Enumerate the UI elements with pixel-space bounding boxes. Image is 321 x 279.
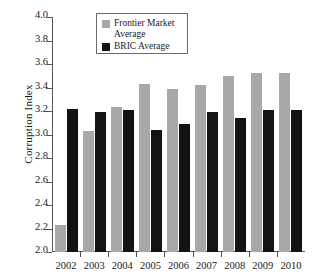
- x-tick-mark: [136, 252, 137, 257]
- x-tick-label: 2008: [221, 260, 249, 271]
- bar-chart-figure: Corruption Index 2.02.22.42.62.83.03.23.…: [0, 0, 321, 279]
- bar-bric-average-2010: [291, 110, 302, 252]
- bar-bric-average-2002: [67, 109, 78, 252]
- bar-frontier-market-average-2008: [223, 76, 234, 252]
- x-tick-label: 2003: [80, 260, 108, 271]
- y-tick-label: 4.0: [35, 9, 48, 20]
- x-tick-label: 2005: [136, 260, 164, 271]
- x-tick-mark: [193, 252, 194, 257]
- x-tick-mark: [164, 252, 165, 257]
- legend-label-bric: BRIC Average: [114, 41, 170, 52]
- legend-item-bric: BRIC Average: [102, 41, 183, 52]
- bar-frontier-market-average-2010: [279, 73, 290, 252]
- bar-frontier-market-average-2004: [111, 107, 122, 252]
- y-tick-label: 3.0: [35, 127, 48, 138]
- bar-bric-average-2008: [235, 118, 246, 252]
- bar-bric-average-2006: [179, 124, 190, 252]
- bar-frontier-market-average-2003: [83, 131, 94, 252]
- y-tick-label: 3.6: [35, 56, 48, 67]
- y-tick-label: 3.2: [35, 103, 48, 114]
- x-tick-label: 2010: [277, 260, 305, 271]
- bar-bric-average-2003: [95, 112, 106, 252]
- bar-bric-average-2009: [263, 110, 274, 252]
- bar-bric-average-2005: [151, 130, 162, 252]
- bar-frontier-market-average-2002: [55, 225, 66, 252]
- legend-swatch-icon-frontier: [102, 20, 110, 28]
- y-tick-label: 2.2: [35, 221, 48, 232]
- legend-label-frontier: Frontier Market Average: [114, 18, 183, 39]
- y-tick-label: 3.4: [35, 80, 48, 91]
- legend-swatch-icon-bric: [102, 43, 110, 51]
- x-tick-label: 2009: [249, 260, 277, 271]
- bar-bric-average-2007: [207, 112, 218, 252]
- x-tick-mark: [277, 252, 278, 257]
- x-tick-label: 2004: [108, 260, 136, 271]
- y-tick-label: 2.4: [35, 197, 48, 208]
- y-tick-label: 3.8: [35, 33, 48, 44]
- x-tick-label: 2002: [52, 260, 80, 271]
- y-axis-label: Corruption Index: [22, 34, 34, 214]
- bar-bric-average-2004: [123, 110, 134, 252]
- y-tick-label: 2.8: [35, 150, 48, 161]
- bar-frontier-market-average-2006: [167, 89, 178, 252]
- legend-item-frontier: Frontier Market Average: [102, 18, 183, 39]
- y-axis-line: [52, 17, 53, 252]
- y-tick-label: 2.6: [35, 174, 48, 185]
- y-tick-label: 2.0: [35, 244, 48, 255]
- bar-frontier-market-average-2007: [195, 85, 206, 252]
- bar-frontier-market-average-2009: [251, 73, 262, 252]
- x-tick-mark: [80, 252, 81, 257]
- x-tick-mark: [221, 252, 222, 257]
- bar-frontier-market-average-2005: [139, 84, 150, 252]
- x-tick-mark: [108, 252, 109, 257]
- x-tick-label: 2007: [193, 260, 221, 271]
- x-tick-mark: [249, 252, 250, 257]
- x-tick-label: 2006: [164, 260, 192, 271]
- chart-legend: Frontier Market Average BRIC Average: [96, 13, 188, 54]
